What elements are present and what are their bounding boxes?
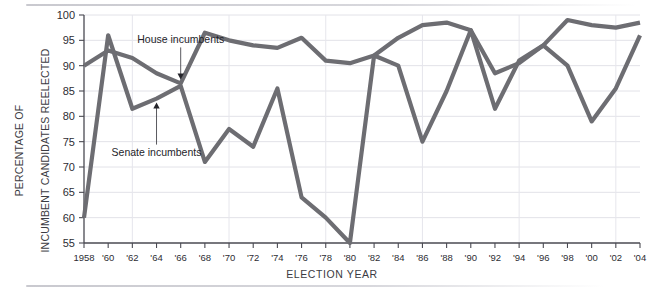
x-tick-label: '90 (465, 252, 477, 263)
y-tick-label: 55 (63, 237, 75, 249)
annotation-label-house-incumbents: House incumbents (137, 33, 224, 45)
x-tick-label: '84 (392, 252, 404, 263)
x-tick-label: '80 (344, 252, 356, 263)
y-tick-label: 70 (63, 161, 75, 173)
y-tick-label: 85 (63, 85, 75, 97)
x-tick-label: '86 (416, 252, 428, 263)
x-tick-label: '60 (102, 252, 114, 263)
x-tick-label: '74 (271, 252, 283, 263)
data-series-group (84, 20, 640, 243)
y-tick-label: 75 (63, 136, 75, 148)
x-tick-label: 1958 (73, 252, 94, 263)
x-tick-label: '04 (634, 252, 646, 263)
series-line-house-incumbents (84, 20, 640, 83)
x-tick-label: '66 (175, 252, 187, 263)
vertical-gridlines-group (132, 15, 615, 243)
x-tick-label: '96 (537, 252, 549, 263)
x-tick-label: '00 (585, 252, 597, 263)
x-tick-label: '82 (368, 252, 380, 263)
x-tick-label: '70 (223, 252, 235, 263)
y-tick-label: 65 (63, 186, 75, 198)
x-tick-label: '78 (320, 252, 332, 263)
x-tick-label: '68 (199, 252, 211, 263)
y-tick-label: 80 (63, 110, 75, 122)
series-line-senate-incumbents (84, 30, 640, 243)
annotation-label-senate-incumbents: Senate incumbents (112, 146, 202, 158)
y-tick-label: 60 (63, 212, 75, 224)
line-chart-svg: 556065707580859095100 1958'60'62'64'66'6… (0, 0, 664, 295)
y-tick-label: 95 (63, 34, 75, 46)
x-tick-label: '88 (440, 252, 452, 263)
x-tick-label: '92 (489, 252, 501, 263)
x-tick-label: '72 (247, 252, 259, 263)
x-tick-label: '62 (126, 252, 138, 263)
y-axis-ticks-group: 556065707580859095100 (57, 9, 84, 249)
chart-page: PERCENTAGE OF INCUMBENT CANDIDATES REELE… (0, 0, 664, 295)
y-tick-label: 90 (63, 60, 75, 72)
x-tick-label: '76 (295, 252, 307, 263)
y-tick-label: 100 (57, 9, 75, 21)
x-tick-label: '64 (150, 252, 162, 263)
x-tick-label: '94 (513, 252, 525, 263)
plot-area: 556065707580859095100 1958'60'62'64'66'6… (0, 0, 664, 295)
x-tick-label: '98 (561, 252, 573, 263)
annotation-arrowhead (153, 103, 159, 109)
x-axis-ticks-group: 1958'60'62'64'66'68'70'72'74'76'78'80'82… (73, 243, 646, 263)
x-tick-label: '02 (610, 252, 622, 263)
